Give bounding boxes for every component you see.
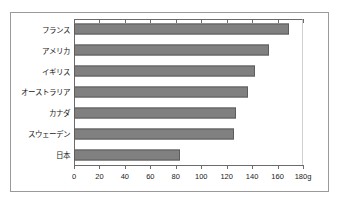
x-tick-mark xyxy=(303,165,304,169)
bar-row: イギリス xyxy=(11,61,328,82)
category-label: スウェーデン xyxy=(28,128,70,139)
bar xyxy=(74,86,248,97)
category-label-cell: 日本 xyxy=(11,144,74,165)
x-tick-mark xyxy=(227,165,228,169)
category-label-cell: カナダ xyxy=(11,102,74,123)
bar-row: スウェーデン xyxy=(11,123,328,144)
category-label: イギリス xyxy=(42,66,70,77)
bar-row: 日本 xyxy=(11,144,328,165)
x-tick-label: 60 xyxy=(146,172,154,181)
category-label-cell: フランス xyxy=(11,19,74,40)
bar xyxy=(74,128,234,139)
bar xyxy=(74,149,180,160)
x-tick-mark xyxy=(150,165,151,169)
x-tick-label: 0 xyxy=(72,172,76,181)
x-tick-label: 140 xyxy=(246,172,259,181)
x-tick-mark xyxy=(99,165,100,169)
x-tick-label: 120 xyxy=(220,172,233,181)
x-tick-label: 40 xyxy=(121,172,129,181)
x-tick-mark xyxy=(201,165,202,169)
bar xyxy=(74,45,269,56)
chart-frame: 020406080100120140160180g フランスアメリカイギリスオー… xyxy=(10,12,329,192)
bar-row: カナダ xyxy=(11,102,328,123)
bar xyxy=(74,24,289,35)
category-label-cell: アメリカ xyxy=(11,40,74,61)
bar-row: フランス xyxy=(11,19,328,40)
category-label: アメリカ xyxy=(42,45,70,56)
x-tick-mark xyxy=(252,165,253,169)
category-label-cell: イギリス xyxy=(11,61,74,82)
x-tick-mark xyxy=(278,165,279,169)
category-label: フランス xyxy=(42,24,70,35)
x-tick-label: 100 xyxy=(195,172,208,181)
category-label: カナダ xyxy=(49,107,70,118)
bar xyxy=(74,107,236,118)
x-axis-line xyxy=(74,165,303,166)
x-tick-mark xyxy=(176,165,177,169)
bar-row: アメリカ xyxy=(11,40,328,61)
x-tick-label: 180g xyxy=(295,172,312,181)
x-tick-mark xyxy=(74,165,75,169)
x-tick-mark xyxy=(125,165,126,169)
category-label-cell: スウェーデン xyxy=(11,123,74,144)
bar xyxy=(74,66,255,77)
x-tick-label: 160 xyxy=(271,172,284,181)
bar-row: オーストラリア xyxy=(11,82,328,103)
x-tick-label: 80 xyxy=(172,172,180,181)
x-tick-label: 20 xyxy=(95,172,103,181)
category-label: オーストラリア xyxy=(21,86,70,97)
category-label: 日本 xyxy=(56,149,70,160)
category-label-cell: オーストラリア xyxy=(11,82,74,103)
